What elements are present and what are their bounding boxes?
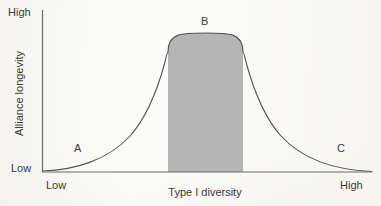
- y-axis-title: Alliance longevity: [14, 44, 25, 144]
- region-label-a: A: [74, 143, 81, 154]
- x-axis-title: Type I diversity: [140, 187, 270, 198]
- shaded-plateau-region: [168, 33, 243, 172]
- y-axis-tick-high: High: [8, 7, 31, 18]
- plot-area: [0, 0, 381, 206]
- y-axis-tick-low: Low: [11, 163, 31, 174]
- x-axis-tick-low: Low: [46, 180, 66, 191]
- x-axis-tick-high: High: [340, 180, 363, 191]
- region-label-c: C: [337, 143, 345, 154]
- chart-figure: High Low Alliance longevity Low High Typ…: [0, 0, 381, 206]
- region-label-b: B: [201, 16, 208, 27]
